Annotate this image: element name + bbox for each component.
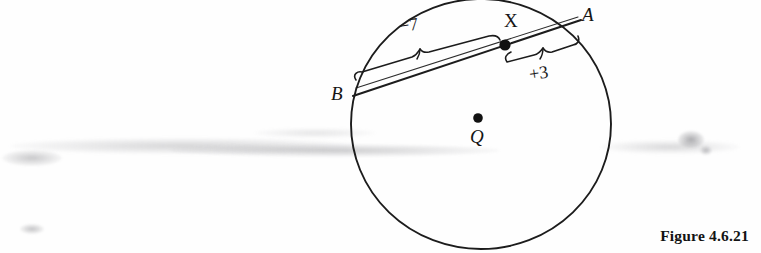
label-point-x: X bbox=[504, 11, 518, 30]
chord-ba bbox=[353, 20, 581, 96]
point-q-dot bbox=[473, 113, 483, 123]
label-point-b: B bbox=[331, 84, 343, 103]
figure-container: A B X Q −7 +3 Figure 4.6.21 bbox=[0, 0, 761, 253]
point-x-dot bbox=[499, 39, 510, 50]
label-point-a: A bbox=[582, 5, 594, 24]
brace-plus-3 bbox=[506, 36, 579, 62]
brace-minus-7 bbox=[355, 35, 500, 80]
label-segment-xa-measure: +3 bbox=[528, 63, 549, 83]
geometry-drawing bbox=[0, 0, 761, 253]
label-point-q: Q bbox=[470, 127, 484, 146]
label-segment-bx-measure: −7 bbox=[398, 15, 419, 35]
figure-caption: Figure 4.6.21 bbox=[660, 227, 749, 245]
